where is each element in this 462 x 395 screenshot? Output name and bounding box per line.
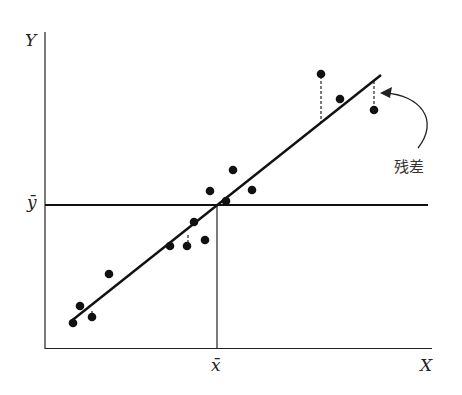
regression-diagram [0, 0, 462, 395]
data-points [69, 70, 379, 328]
residual-lines [92, 76, 374, 315]
y-mean-label: ȳ [27, 192, 37, 212]
residual-arrow [385, 93, 427, 148]
x-mean-label: x̄ [211, 355, 221, 375]
y-axis-label: Y [25, 30, 36, 50]
residual-label: 残差 [394, 155, 424, 176]
x-axis-label: X [420, 355, 432, 375]
arrow-head-icon [380, 87, 392, 98]
